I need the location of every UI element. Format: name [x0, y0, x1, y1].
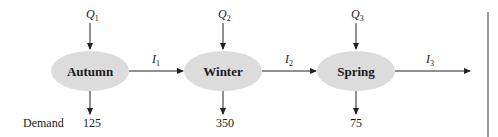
inventory-arc-i2: I2 [262, 52, 316, 71]
demand-value-winter: 350 [216, 116, 234, 130]
supply-label-q2: Q2 [218, 7, 231, 23]
inventory-label-i1: I1 [151, 52, 160, 68]
node-winter: Q2 Winter 350 [184, 7, 262, 130]
node-autumn: Q1 Autumn 125 [51, 7, 129, 130]
node-spring: Q3 Spring 75 [317, 7, 395, 130]
demand-value-autumn: 125 [83, 116, 101, 130]
demand-row-label: Demand [23, 116, 64, 130]
inventory-arc-i1: I1 [129, 52, 183, 71]
side-bar-divider [487, 12, 489, 137]
supply-label-q1: Q1 [86, 7, 99, 23]
inventory-arc-i3: I3 [395, 52, 470, 71]
inventory-label-i2: I2 [284, 52, 293, 68]
production-inventory-flow-diagram: Q1 Autumn 125 I1 Q2 Winter 350 I2 Q3 Spr… [0, 0, 498, 137]
inventory-label-i3: I3 [425, 52, 434, 68]
node-label-winter: Winter [203, 64, 243, 79]
supply-label-q3: Q3 [351, 7, 364, 23]
demand-value-spring: 75 [350, 116, 362, 130]
node-label-autumn: Autumn [67, 64, 114, 79]
node-label-spring: Spring [337, 64, 375, 79]
